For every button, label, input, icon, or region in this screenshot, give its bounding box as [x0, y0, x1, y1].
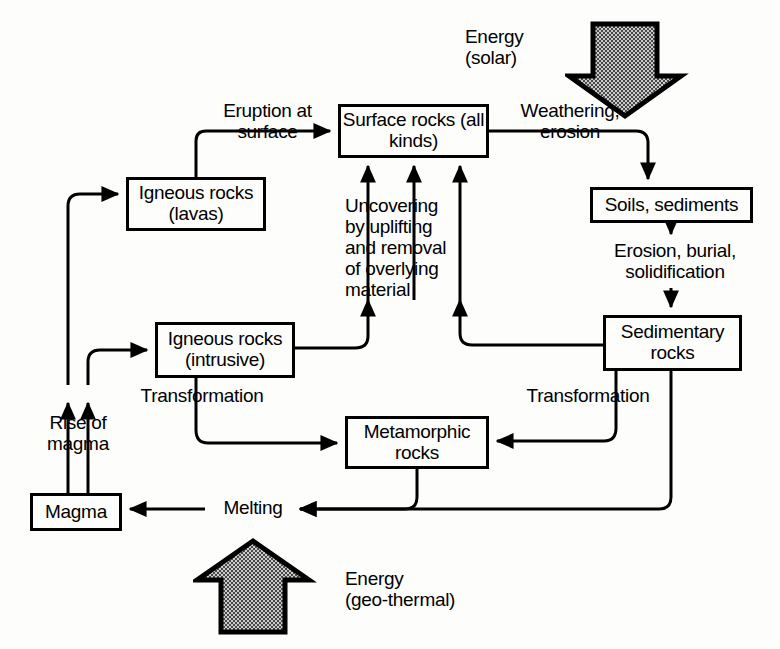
edge-label-uncovering-uplifting: Uncovering by uplifting and removal of o… [345, 196, 465, 300]
node-surface-rocks-label: Surface rocks (all kinds) [341, 110, 486, 151]
node-igneous-intrusive[interactable]: Igneous rocks (intrusive) [155, 322, 295, 378]
node-igneous-lavas[interactable]: Igneous rocks (lavas) [126, 177, 266, 231]
node-metamorphic-rocks[interactable]: Metamorphic rocks [345, 416, 489, 469]
edge-sedimentary-to-uncovering [460, 300, 603, 345]
node-magma[interactable]: Magma [30, 493, 122, 531]
edge-label-transformation-left: Transformation [122, 386, 282, 407]
edge-label-rise-of-magma: Rise of magma [28, 413, 128, 455]
node-metamorphic-rocks-label: Metamorphic rocks [348, 422, 486, 463]
rock-cycle-diagram: Surface rocks (all kinds) Igneous rocks … [0, 0, 780, 649]
node-soils-sediments-label: Soils, sediments [593, 195, 750, 216]
node-igneous-intrusive-label: Igneous rocks (intrusive) [158, 329, 292, 370]
node-magma-label: Magma [33, 502, 119, 523]
energy-label-solar: Energy (solar) [465, 27, 565, 69]
edge-magma-to-lavas [68, 194, 118, 385]
node-surface-rocks[interactable]: Surface rocks (all kinds) [338, 104, 489, 158]
edge-label-melting: Melting [208, 498, 298, 519]
node-soils-sediments[interactable]: Soils, sediments [590, 187, 753, 223]
node-igneous-lavas-label: Igneous rocks (lavas) [129, 183, 263, 224]
edge-metamorphic-to-melting [300, 469, 417, 509]
edge-label-weathering-erosion: Weathering, erosion [500, 101, 640, 143]
edge-intrusive-to-uncovering [295, 300, 368, 348]
edge-label-eruption-at-surface: Eruption at surface [195, 101, 340, 143]
edge-label-erosion-burial-solidification: Erosion, burial, solidification [596, 241, 754, 283]
node-sedimentary-rocks[interactable]: Sedimentary rocks [603, 315, 742, 371]
geothermal-energy-arrow-icon [193, 536, 333, 641]
energy-label-geothermal: Energy (geo-thermal) [345, 569, 545, 611]
edge-label-transformation-right: Transformation [508, 386, 668, 407]
node-sedimentary-rocks-label: Sedimentary rocks [606, 322, 739, 363]
edge-magma-to-intrusive [88, 350, 147, 385]
